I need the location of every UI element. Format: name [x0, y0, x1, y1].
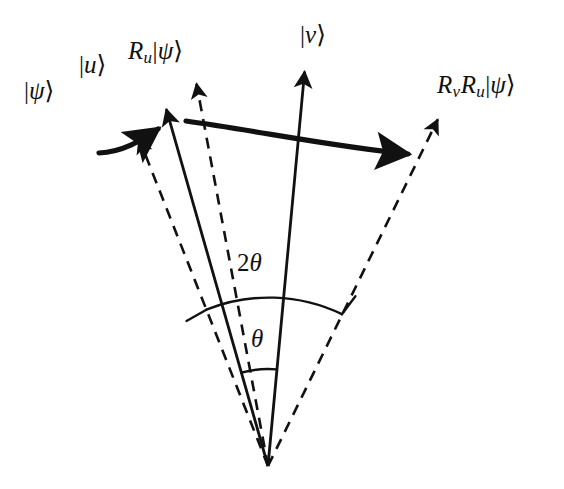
label-two-theta: 2θ [237, 250, 262, 275]
ray-u [166, 109, 268, 466]
label-ru-psi: Ru|ψ⟩ [128, 38, 183, 66]
angle-arcs-group [187, 296, 356, 372]
two-theta-arc-right-tick [342, 296, 356, 314]
label-u: |u⟩ [79, 52, 106, 77]
ray-v [268, 72, 305, 466]
label-rvru-subscript-2: u [476, 82, 485, 101]
label-rvru-operator-2: R [461, 71, 476, 98]
rays-group [139, 72, 438, 466]
label-v-ket-close: ⟩ [316, 21, 326, 48]
label-v-symbol: v [305, 21, 316, 48]
label-ru-symbol: ψ [158, 37, 174, 64]
vector-rotation-figure: |ψ⟩ |u⟩ Ru|ψ⟩ |v⟩ RvRu|ψ⟩ 2θ θ [0, 0, 564, 489]
label-rvru-operator-1: R [437, 71, 452, 98]
first-rotation-arrow [99, 129, 158, 153]
label-ru-ket-close: ⟩ [173, 37, 183, 64]
two-theta-symbol: θ [250, 249, 262, 276]
rotation-arrows-group [99, 121, 408, 154]
label-ru-subscript: u [144, 48, 153, 67]
label-theta: θ [251, 326, 263, 351]
label-rvru-ket-close: ⟩ [506, 71, 516, 98]
label-ru-operator: R [128, 37, 143, 64]
label-rvru-subscript-1: v [453, 82, 461, 101]
theta-symbol: θ [251, 325, 263, 352]
label-psi-ket-close: ⟩ [45, 77, 55, 104]
label-psi-symbol: ψ [29, 77, 45, 104]
label-u-ket-close: ⟩ [97, 51, 107, 78]
ray-rvru-psi [268, 119, 438, 466]
two-theta-arc [206, 298, 342, 315]
two-theta-arc-left-tick [187, 310, 207, 321]
ray-psi [139, 139, 268, 467]
two-theta-coefficient: 2 [237, 249, 250, 276]
label-u-symbol: u [84, 51, 97, 78]
label-rvru-symbol: ψ [490, 71, 506, 98]
theta-arc [241, 369, 277, 373]
label-psi: |ψ⟩ [24, 78, 54, 103]
label-v: |v⟩ [300, 22, 326, 47]
label-rvru-psi: RvRu|ψ⟩ [437, 72, 516, 100]
